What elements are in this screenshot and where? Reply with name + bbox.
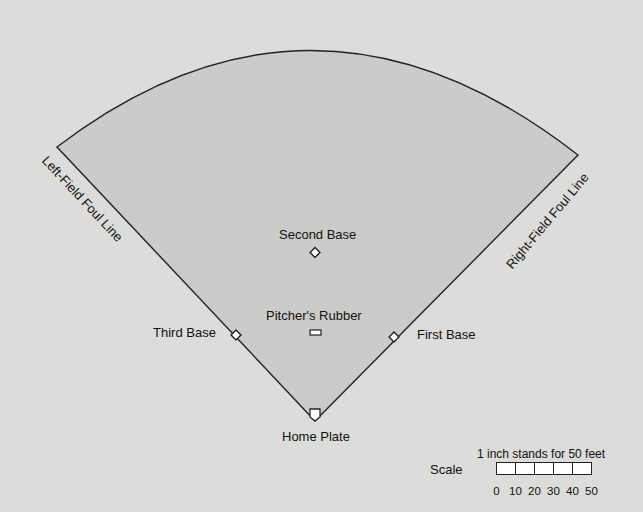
third-base-label: Third Base <box>153 325 216 340</box>
scale-tick: 40 <box>563 485 582 497</box>
home-plate-label: Home Plate <box>282 429 350 444</box>
scale-segment <box>554 463 573 474</box>
scale-label: Scale <box>430 462 463 477</box>
scale-tick: 10 <box>506 485 525 497</box>
scale-segment <box>573 463 591 474</box>
scale-tick: 20 <box>525 485 544 497</box>
baseball-field-diagram: Left-Field Foul Line Right-Field Foul Li… <box>0 0 643 512</box>
second-base-label: Second Base <box>279 227 356 242</box>
scale-tick: 30 <box>544 485 563 497</box>
home-plate-icon <box>310 409 320 421</box>
scale-tick: 0 <box>487 485 506 497</box>
pitchers-rubber-icon <box>310 330 321 335</box>
scale-bar <box>496 462 592 475</box>
pitchers-rubber-label: Pitcher's Rubber <box>266 308 362 323</box>
scale-segment <box>497 463 516 474</box>
scale-caption: 1 inch stands for 50 feet <box>477 447 605 461</box>
scale-segment <box>516 463 535 474</box>
first-base-label: First Base <box>417 327 476 342</box>
scale-segment <box>535 463 554 474</box>
scale-ticks: 0 10 20 30 40 50 <box>487 485 601 497</box>
scale-tick: 50 <box>582 485 601 497</box>
